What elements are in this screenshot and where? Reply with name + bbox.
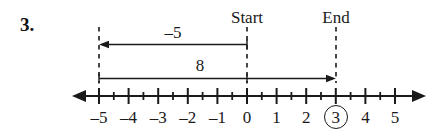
axis-tick-label: –2 <box>179 108 196 128</box>
axis-tick-label: 0 <box>243 108 252 128</box>
axis-tick-label-highlighted: 3 <box>332 108 341 128</box>
axis-tick-label: –5 <box>91 108 108 128</box>
axis-tick-label: –4 <box>120 108 137 128</box>
axis-tick-label: 2 <box>302 108 311 128</box>
axis-tick-label: –3 <box>150 108 167 128</box>
axis-tick-label: –1 <box>209 108 226 128</box>
axis-tick-label: 1 <box>272 108 281 128</box>
axis-left-arrowhead <box>72 90 86 102</box>
jump-eight-arrow <box>99 74 336 84</box>
axis-tick-label: 5 <box>391 108 400 128</box>
axis <box>72 88 426 104</box>
jump-negative-five-arrow <box>99 40 247 50</box>
axis-right-arrowhead <box>412 90 426 102</box>
axis-tick-label: 4 <box>361 108 370 128</box>
guide-lines <box>99 27 336 83</box>
axis-ticks <box>99 88 395 104</box>
